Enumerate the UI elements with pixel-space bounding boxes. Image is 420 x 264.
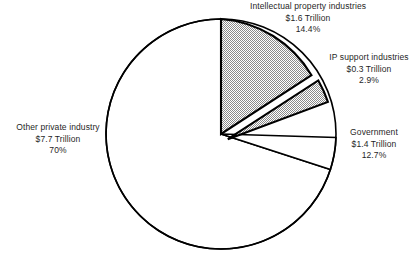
slice-label-government: Government $1.4 Trillion 12.7% <box>330 127 418 162</box>
slice-label-percent: 14.4% <box>222 24 394 36</box>
slice-label-value: $1.4 Trillion <box>330 139 418 151</box>
slice-label-ip-support-industries: IP support industries $0.3 Trillion 2.9% <box>318 52 420 87</box>
slice-label-other-private-industry: Other private industry $7.7 Trillion 70% <box>2 122 114 157</box>
slice-label-value: $1.6 Trillion <box>222 13 394 25</box>
slice-label-name: Government <box>330 127 418 139</box>
pie-chart-figure: Intellectual property industries $1.6 Tr… <box>0 0 420 264</box>
slice-label-intellectual-property-industries: Intellectual property industries $1.6 Tr… <box>222 1 394 36</box>
slice-label-percent: 12.7% <box>330 150 418 162</box>
slice-label-value: $0.3 Trillion <box>318 64 420 76</box>
slice-label-name: Intellectual property industries <box>222 1 394 13</box>
slice-label-name: IP support industries <box>318 52 420 64</box>
slice-label-name: Other private industry <box>2 122 114 134</box>
slice-label-percent: 2.9% <box>318 75 420 87</box>
slice-label-percent: 70% <box>2 145 114 157</box>
slice-label-value: $7.7 Trillion <box>2 134 114 146</box>
